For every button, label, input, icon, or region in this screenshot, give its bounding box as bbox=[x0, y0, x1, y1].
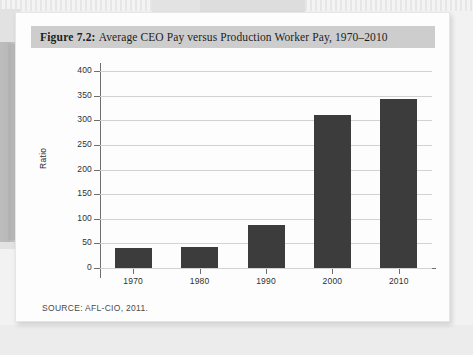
gridline-400 bbox=[100, 71, 432, 72]
x-axis-label-1990: 1990 bbox=[243, 276, 289, 286]
y-axis-label-250: 250 bbox=[58, 139, 92, 149]
x-axis-label-2010: 2010 bbox=[376, 276, 422, 286]
x-axis-label-2000: 2000 bbox=[309, 276, 355, 286]
x-axis-label-1970: 1970 bbox=[110, 276, 156, 286]
y-axis-label-350: 350 bbox=[58, 90, 92, 100]
y-axis-label-0: 0 bbox=[58, 262, 92, 272]
y-axis-title: Ratio bbox=[38, 148, 48, 169]
figure-page: Figure 7.2: Average CEO Pay versus Produ… bbox=[15, 12, 450, 322]
y-axis-tick-300 bbox=[94, 120, 100, 121]
y-axis-label-400: 400 bbox=[58, 65, 92, 75]
bar-1970 bbox=[115, 248, 152, 268]
bar-1980 bbox=[181, 247, 218, 268]
y-axis-tick-50 bbox=[94, 243, 100, 244]
y-axis-label-200: 200 bbox=[58, 164, 92, 174]
y-axis-tick-0 bbox=[94, 268, 100, 269]
x-axis-tick-2000 bbox=[332, 269, 333, 274]
y-axis-tick-150 bbox=[94, 194, 100, 195]
figure-number: Figure 7.2: bbox=[40, 31, 96, 43]
source-note: SOURCE: AFL-CIO, 2011. bbox=[42, 303, 148, 313]
y-axis-tick-100 bbox=[94, 219, 100, 220]
bar-2010 bbox=[380, 99, 417, 268]
gridline-350 bbox=[100, 96, 432, 97]
chart-grid: 050100150200250300350400 197019801990200… bbox=[100, 61, 432, 278]
y-axis-label-300: 300 bbox=[58, 114, 92, 124]
bar-1990 bbox=[248, 225, 285, 268]
chart-plot-area: Ratio 050100150200250300350400 197019801… bbox=[42, 61, 432, 281]
y-axis-label-100: 100 bbox=[58, 213, 92, 223]
page-bottom-strip bbox=[0, 325, 473, 355]
y-axis-label-50: 50 bbox=[58, 237, 92, 247]
y-axis-label-150: 150 bbox=[58, 188, 92, 198]
x-axis-tick-1990 bbox=[266, 269, 267, 274]
scan-artifact-block-b bbox=[200, 0, 305, 12]
x-axis-tick-2010 bbox=[399, 269, 400, 274]
y-axis-tick-200 bbox=[94, 170, 100, 171]
x-axis-tick-1980 bbox=[200, 269, 201, 274]
figure-title-text: Average CEO Pay versus Production Worker… bbox=[99, 31, 388, 43]
x-axis-label-1980: 1980 bbox=[177, 276, 223, 286]
y-axis-tick-350 bbox=[94, 96, 100, 97]
y-axis-tick-400 bbox=[94, 71, 100, 72]
bar-2000 bbox=[314, 115, 351, 268]
y-axis-tick-250 bbox=[94, 145, 100, 146]
figure-title-banner: Figure 7.2: Average CEO Pay versus Produ… bbox=[31, 26, 435, 48]
x-axis-tick-1970 bbox=[133, 269, 134, 274]
